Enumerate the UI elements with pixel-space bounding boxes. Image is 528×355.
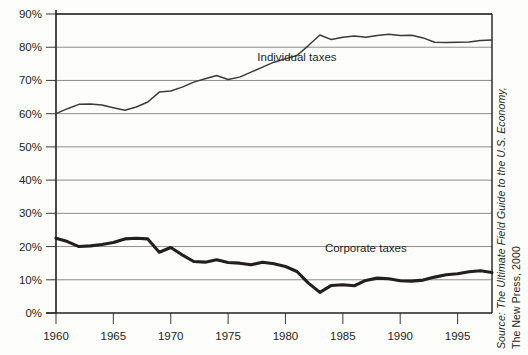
x-tick-label: 1980: [273, 330, 299, 342]
source-line-1: Source: The Ultimate Field Guide to the …: [495, 87, 507, 349]
y-tick-label: 50%: [19, 141, 42, 153]
chart-figure: 0%10%20%30%40%50%60%70%80%90% 1960196519…: [0, 0, 528, 355]
x-tick-label: 1990: [387, 330, 413, 342]
series-annotation-corporate-taxes: Corporate taxes: [325, 242, 407, 254]
y-tick-label: 30%: [19, 207, 42, 219]
x-tick-label: 1975: [215, 330, 241, 342]
y-tick-marks: [46, 14, 56, 313]
y-axis-tick-labels: 0%10%20%30%40%50%60%70%80%90%: [19, 8, 42, 319]
x-tick-marks: [56, 313, 458, 324]
x-axis-tick-labels: 19601965197019751980198519901995: [43, 330, 470, 342]
y-tick-label: 20%: [19, 241, 42, 253]
y-tick-label: 60%: [19, 108, 42, 120]
series-annotations: Individual taxesCorporate taxes: [257, 51, 407, 254]
x-tick-label: 1985: [330, 330, 356, 342]
x-tick-label: 1970: [158, 330, 184, 342]
y-tick-label: 10%: [19, 274, 42, 286]
data-series: [56, 34, 492, 292]
series-annotation-individual-taxes: Individual taxes: [257, 51, 337, 63]
source-line-2: The New Press, 2000: [510, 246, 522, 349]
y-tick-label: 0%: [25, 307, 42, 319]
y-tick-label: 40%: [19, 174, 42, 186]
y-tick-label: 70%: [19, 74, 42, 86]
y-tick-label: 80%: [19, 41, 42, 53]
x-tick-label: 1995: [445, 330, 471, 342]
x-tick-label: 1965: [101, 330, 127, 342]
line-chart: 0%10%20%30%40%50%60%70%80%90% 1960196519…: [0, 0, 528, 355]
x-tick-label: 1960: [43, 330, 69, 342]
series-line-individual-taxes: [56, 34, 492, 113]
y-tick-label: 90%: [19, 8, 42, 20]
source-note: Source: The Ultimate Field Guide to the …: [494, 0, 526, 355]
